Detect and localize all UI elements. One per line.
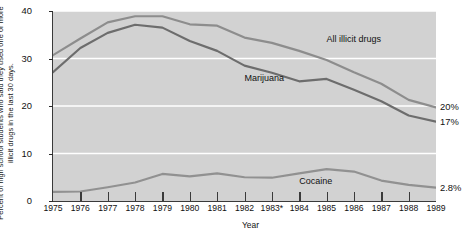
x-tick-mark (409, 192, 410, 201)
y-tick-mark (49, 59, 53, 60)
x-tick-mark (80, 192, 81, 201)
y-axis-label: Percent of high school students who said… (0, 6, 30, 220)
x-tick-mark (272, 192, 273, 201)
x-tick-mark (162, 192, 163, 201)
x-tick-mark (381, 192, 382, 201)
y-tick-label: 0 (8, 195, 32, 206)
series-annotation-cocaine: Cocaine (299, 176, 332, 186)
series-line-cocaine (53, 169, 436, 192)
y-tick-mark (49, 154, 53, 155)
y-tick-label: 40 (8, 5, 32, 16)
x-tick-mark (354, 192, 355, 201)
y-tick-label: 10 (8, 148, 32, 159)
end-label-all-illicit-drugs: 20% (440, 101, 459, 112)
x-tick-mark (217, 192, 218, 201)
x-tick-mark (190, 192, 191, 201)
end-label-cocaine: 2.8% (440, 182, 461, 193)
x-tick-label: 1989 (414, 203, 458, 213)
y-tick-label: 20 (8, 100, 32, 111)
y-tick-mark (49, 11, 53, 12)
x-tick-mark (245, 192, 246, 201)
y-tick-mark (49, 106, 53, 107)
x-tick-mark (108, 192, 109, 201)
y-tick-label: 30 (8, 53, 32, 64)
series-annotation-marijuana: Marijuana (245, 73, 285, 83)
x-tick-mark (299, 192, 300, 201)
x-axis-label: Year (0, 220, 473, 230)
series-line-all-illicit-drugs (53, 16, 436, 107)
end-label-marijuana: 17% (440, 116, 459, 127)
x-tick-mark (327, 192, 328, 201)
series-annotation-all-illicit-drugs: All illicit drugs (327, 34, 382, 44)
chart-figure: Percent of high school students who said… (0, 0, 473, 242)
y-tick-mark (49, 201, 53, 202)
x-tick-mark (135, 192, 136, 201)
